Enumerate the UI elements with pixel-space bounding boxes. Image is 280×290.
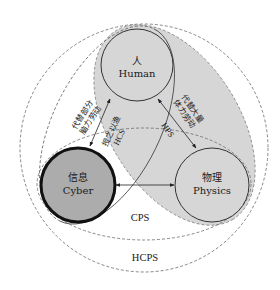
physics-label-en: Physics: [193, 185, 231, 196]
node-physics: 物理 Physics: [175, 148, 249, 222]
physics-label-zh: 物理: [202, 171, 222, 183]
human-label-zh: 人: [132, 56, 142, 67]
label-cps: CPS: [131, 212, 150, 223]
human-label-en: Human: [118, 68, 156, 79]
node-cyber: 信息 Cyber: [41, 148, 115, 222]
cyber-label-en: Cyber: [63, 185, 94, 196]
hcps-diagram: 人 Human 物理 Physics 信息 Cyber 代替部分 脑力劳动 代替…: [0, 0, 280, 290]
label-hcps: HCPS: [132, 252, 158, 263]
node-human: 人 Human: [101, 29, 173, 101]
cyber-label-zh: 信息: [68, 171, 88, 183]
